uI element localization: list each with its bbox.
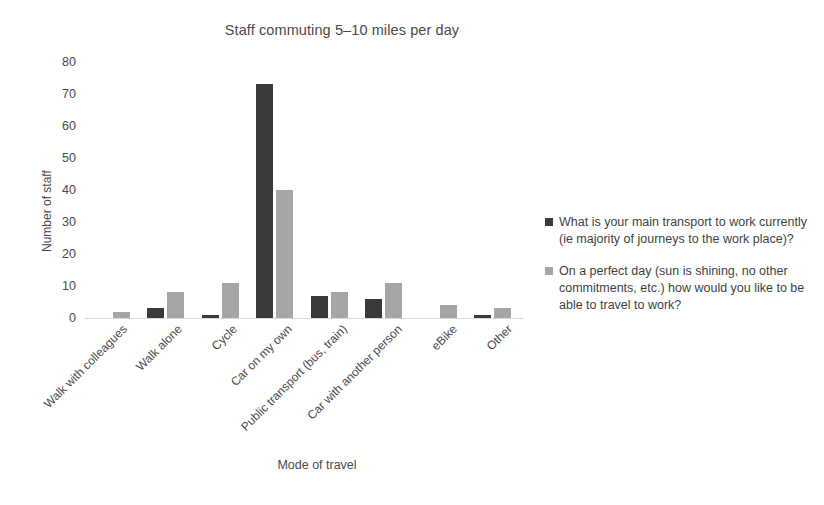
chart-legend: What is your main transport to work curr… <box>545 214 813 328</box>
legend-swatch-icon <box>545 267 553 275</box>
x-axis-tick-label: Walk alone <box>133 322 185 374</box>
bar-0 <box>147 308 164 318</box>
x-axis-line <box>84 318 524 319</box>
legend-item[interactable]: On a perfect day (sun is shining, no oth… <box>545 263 813 315</box>
bar-0 <box>256 84 273 318</box>
bar-0 <box>365 299 382 318</box>
chart-container: Staff commuting 5–10 miles per day Numbe… <box>0 0 824 505</box>
plot-area <box>84 62 520 318</box>
bar-1 <box>385 283 402 318</box>
bar-1 <box>222 283 239 318</box>
bar-0 <box>474 315 491 318</box>
bar-1 <box>440 305 457 318</box>
x-axis-title: Mode of travel <box>0 458 824 472</box>
bar-group <box>466 62 521 318</box>
y-axis: Number of staff 01020304050607080 <box>46 62 76 318</box>
legend-swatch-icon <box>545 218 553 226</box>
legend-label: On a perfect day (sun is shining, no oth… <box>559 263 813 315</box>
y-axis-tick-label: 0 <box>46 311 76 325</box>
bar-1 <box>276 190 293 318</box>
x-axis-category-labels: Walk with colleaguesWalk aloneCycleCar o… <box>84 322 524 442</box>
bar-group <box>302 62 357 318</box>
legend-item[interactable]: What is your main transport to work curr… <box>545 214 813 249</box>
bar-1 <box>113 312 130 318</box>
y-axis-tick-label: 10 <box>46 279 76 293</box>
y-axis-tick-label: 70 <box>46 87 76 101</box>
y-axis-tick-label: 40 <box>46 183 76 197</box>
chart-title: Staff commuting 5–10 miles per day <box>0 22 824 38</box>
bar-1 <box>494 308 511 318</box>
bar-group <box>357 62 412 318</box>
bar-1 <box>331 292 348 318</box>
x-axis-tick-label: eBike <box>428 322 459 353</box>
y-axis-tick-label: 20 <box>46 247 76 261</box>
bar-group <box>84 62 139 318</box>
bar-group <box>193 62 248 318</box>
bar-group <box>411 62 466 318</box>
x-axis-tick-label: Other <box>483 322 514 353</box>
y-axis-tick-label: 80 <box>46 55 76 69</box>
x-axis-tick-label: Walk with colleagues <box>41 322 130 411</box>
y-axis-tick-label: 50 <box>46 151 76 165</box>
y-axis-tick-label: 30 <box>46 215 76 229</box>
x-axis-tick-label: Car with another person <box>304 322 404 422</box>
legend-label: What is your main transport to work curr… <box>559 214 813 249</box>
bar-group <box>139 62 194 318</box>
y-axis-tick-label: 60 <box>46 119 76 133</box>
bar-0 <box>202 315 219 318</box>
x-axis-tick-label: Public transport (bus, train) <box>238 322 350 434</box>
x-axis-tick-label: Cycle <box>208 322 239 353</box>
bar-0 <box>311 296 328 318</box>
bar-group <box>248 62 303 318</box>
bar-1 <box>167 292 184 318</box>
